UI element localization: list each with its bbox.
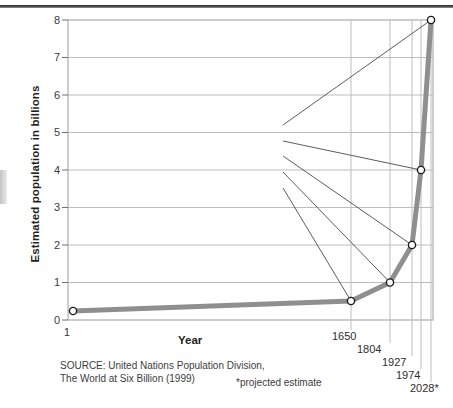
chart-figure: Estimated population in billions 8 7 6 5…: [0, 0, 453, 408]
data-point-year-1804: [386, 279, 393, 286]
data-point-year-1927: [408, 241, 415, 248]
projected-estimate-note: *projected estimate: [236, 377, 322, 388]
data-point-year-1: [69, 307, 76, 314]
data-point-year-1650: [347, 297, 354, 304]
y-axis-ticks: [62, 20, 68, 320]
source-line-2: The World at Six Billion (1999): [60, 373, 265, 386]
data-point-year-1974: [417, 166, 424, 173]
plot-canvas: [0, 0, 453, 408]
source-note: SOURCE: United Nations Population Divisi…: [60, 360, 265, 385]
source-line-1: SOURCE: United Nations Population Divisi…: [60, 360, 265, 373]
data-point-year-2028: [427, 16, 434, 23]
